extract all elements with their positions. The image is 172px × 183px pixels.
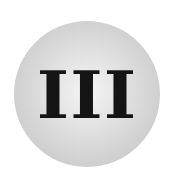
roman-numeral-badge: III <box>14 21 160 167</box>
numeral-label: III <box>10 21 163 167</box>
